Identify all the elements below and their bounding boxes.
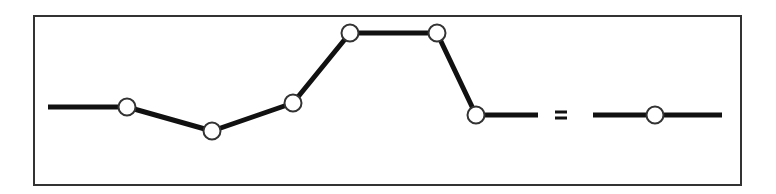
node-circle-icon bbox=[429, 25, 446, 42]
line-profile-diagram bbox=[0, 0, 776, 194]
node-circle-icon bbox=[342, 25, 359, 42]
break-symbol-equals bbox=[555, 111, 567, 120]
node-circle-icon bbox=[468, 107, 485, 124]
diagram-frame bbox=[34, 16, 741, 185]
node-circle-icon bbox=[285, 95, 302, 112]
profile-line bbox=[48, 33, 538, 131]
node-circle-icon bbox=[204, 123, 221, 140]
node-circle-icon bbox=[647, 107, 664, 124]
node-circle-icon bbox=[119, 99, 136, 116]
node-group bbox=[119, 25, 664, 140]
